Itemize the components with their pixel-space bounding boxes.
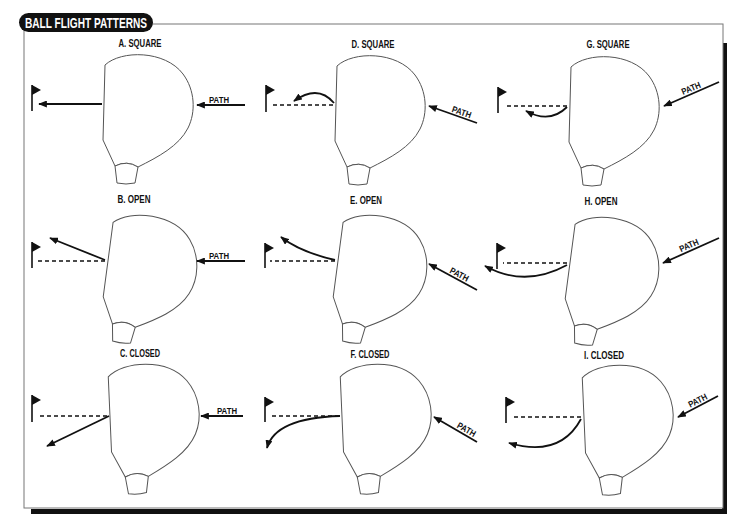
panel-title: B. OPEN <box>118 194 151 205</box>
panel-title: I. CLOSED <box>584 350 624 361</box>
panel-title: F. CLOSED <box>351 349 390 360</box>
panel-title: C. CLOSED <box>120 348 160 359</box>
panel-title: E. OPEN <box>350 195 382 206</box>
panel-title: A. SQUARE <box>119 38 162 49</box>
panel-title: G. SQUARE <box>587 39 630 50</box>
frame-shadow-bottom <box>31 509 727 514</box>
title-badge: BALL FLIGHT PATTERNS <box>19 13 153 32</box>
panel-title: H. OPEN <box>585 196 618 207</box>
path-label: PATH <box>217 406 237 416</box>
path-label: PATH <box>209 251 229 261</box>
ball-flight-diagram: BALL FLIGHT PATTERNS A. SQUARE PATH D. S… <box>0 0 738 523</box>
panel-title: D. SQUARE <box>352 39 395 50</box>
path-label: PATH <box>209 95 229 105</box>
page-title: BALL FLIGHT PATTERNS <box>25 15 147 31</box>
